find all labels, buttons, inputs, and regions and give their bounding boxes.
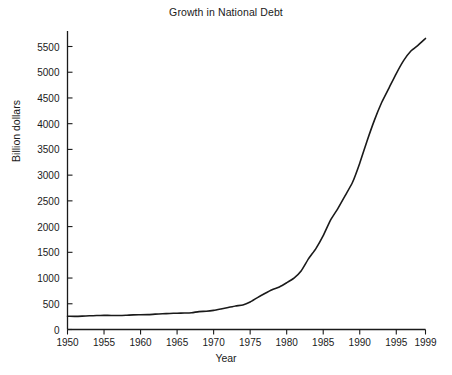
- y-tick-label: 0: [8, 324, 60, 335]
- x-tick-label: 1985: [312, 337, 334, 348]
- y-tick-label: 500: [8, 298, 60, 309]
- x-tick-label: 1980: [276, 337, 298, 348]
- x-tick-label: 1970: [202, 337, 224, 348]
- plot-canvas: [0, 0, 452, 375]
- x-axis-label: Year: [0, 352, 452, 364]
- data-line-national-debt: [68, 38, 426, 316]
- x-tick-label: 1990: [349, 337, 371, 348]
- x-tick-label: 1999: [414, 337, 436, 348]
- y-axis-label: Billion dollars: [10, 71, 22, 191]
- y-tick-label: 5500: [8, 41, 60, 52]
- x-tick-label: 1950: [56, 337, 78, 348]
- y-tick-label: 2000: [8, 221, 60, 232]
- y-tick-label: 1500: [8, 247, 60, 258]
- y-tick-label: 1000: [8, 273, 60, 284]
- y-tick-label: 2500: [8, 195, 60, 206]
- x-tick-label: 1960: [129, 337, 151, 348]
- x-tick-label: 1965: [166, 337, 188, 348]
- x-tick-label: 1995: [385, 337, 407, 348]
- x-tick-label: 1955: [93, 337, 115, 348]
- axes-group: [68, 31, 426, 329]
- chart-figure: Growth in National Debt 0500100015002000…: [0, 0, 452, 375]
- x-tick-label: 1975: [239, 337, 261, 348]
- tick-marks-group: [68, 47, 426, 335]
